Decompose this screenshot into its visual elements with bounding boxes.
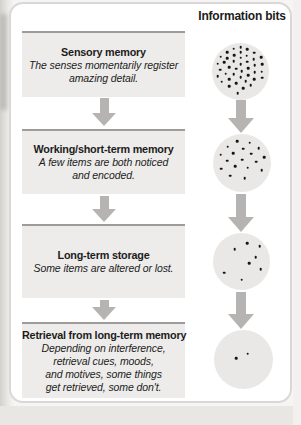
bits-circle-working: [213, 134, 271, 192]
information-bit-dot: [253, 71, 256, 74]
information-bit-dot: [232, 152, 235, 155]
information-bit-dot: [253, 64, 256, 67]
information-bit-dot: [239, 76, 242, 79]
information-bit-dot: [249, 84, 252, 87]
information-bit-dot: [226, 159, 229, 162]
information-bit-dot: [252, 58, 255, 61]
down-arrow-icon: [91, 98, 117, 126]
information-bit-dot: [244, 177, 247, 180]
information-bit-dot: [216, 62, 219, 65]
information-bit-dot: [261, 63, 264, 66]
information-bit-dot: [236, 92, 239, 95]
stage-description: Depending on interference, retrieval cue…: [22, 342, 185, 394]
information-bit-dot: [246, 242, 249, 245]
stage-description: The senses momentarily register amazing …: [22, 59, 185, 85]
arrow-shaft: [100, 196, 109, 209]
information-bit-dot: [236, 140, 239, 143]
arrow-shaft: [236, 292, 246, 314]
information-bit-dot: [260, 70, 263, 73]
arrow-head: [228, 118, 254, 133]
stage-title: Sensory memory: [22, 46, 185, 59]
arrow-shaft: [100, 98, 109, 113]
stage-box-long-term-storage: Long-term storage Some items are altered…: [22, 224, 185, 298]
information-bit-dot: [232, 73, 235, 76]
information-bit-dot: [228, 78, 231, 81]
bits-circle-retrieval: [214, 330, 273, 389]
information-bit-dot: [226, 145, 229, 148]
information-bit-dot: [235, 82, 238, 85]
information-bit-dot: [246, 61, 249, 64]
information-bit-dot: [258, 245, 261, 248]
memory-diagram-page: Information bits Sensory memory The sens…: [0, 0, 301, 425]
information-bit-dot: [248, 141, 251, 144]
information-bit-dot: [253, 78, 256, 81]
information-bit-dot: [245, 54, 248, 57]
information-bit-dot: [250, 152, 253, 155]
arrow-shaft: [236, 100, 246, 118]
stage-title: Long-term storage: [22, 249, 185, 262]
stage-box-retrieval: Retrieval from long-term memory Dependin…: [22, 322, 185, 398]
information-bit-dot: [239, 63, 242, 66]
arrow-head: [92, 307, 116, 320]
down-arrow-icon: [227, 100, 255, 133]
arrow-head: [228, 217, 254, 232]
information-bit-dot: [246, 48, 249, 51]
arrow-head: [92, 113, 116, 126]
information-bit-dot: [253, 51, 256, 54]
information-bit-dot: [232, 47, 235, 50]
information-bit-dot: [247, 166, 250, 169]
information-bit-dot: [239, 46, 242, 49]
page-left-dark-streak: [0, 14, 7, 110]
information-bit-dot: [220, 80, 223, 83]
information-bit-dot: [235, 67, 238, 70]
information-bit-dot: [233, 54, 236, 57]
information-bit-dot: [240, 278, 243, 281]
bits-circle-long-term: [213, 233, 270, 290]
information-bit-dot: [244, 80, 247, 83]
information-bit-dot: [254, 256, 257, 259]
information-bit-dot: [241, 158, 244, 161]
information-bit-dot: [216, 75, 219, 78]
information-bit-dot: [263, 156, 266, 159]
information-bit-dot: [219, 68, 222, 71]
information-bit-dot: [233, 248, 236, 251]
information-bit-dot: [228, 66, 231, 69]
stage-description: Some items are altered or lost.: [22, 262, 185, 275]
information-bit-dot: [242, 147, 245, 150]
stage-box-working-memory: Working/short-term memory A few items ar…: [22, 129, 185, 194]
down-arrow-icon: [91, 196, 117, 222]
arrow-head: [228, 314, 254, 329]
stage-description: A few items are both noticed and encoded…: [22, 156, 185, 182]
arrow-shaft: [236, 194, 246, 217]
information-bit-dot: [234, 165, 237, 168]
information-bit-dot: [261, 76, 264, 79]
information-bit-dot: [226, 51, 229, 54]
information-bit-dot: [228, 85, 231, 88]
information-bit-dot: [258, 147, 261, 150]
information-bits-heading: Information bits: [188, 9, 296, 23]
arrow-head: [92, 209, 116, 222]
information-bit-dot: [235, 357, 238, 360]
information-bit-dot: [255, 161, 258, 164]
information-bit-dot: [224, 72, 227, 75]
information-bit-dot: [242, 87, 245, 90]
down-arrow-icon: [227, 194, 255, 232]
page-right-margin: [293, 0, 301, 425]
information-bit-dot: [260, 169, 263, 172]
information-bit-dot: [240, 70, 243, 73]
information-bit-dot: [229, 174, 232, 177]
information-bit-dot: [220, 168, 223, 171]
arrow-shaft: [100, 300, 109, 307]
information-bit-dot: [260, 56, 263, 59]
information-bit-dot: [223, 272, 226, 275]
information-bit-dot: [260, 268, 263, 271]
information-bit-dot: [246, 352, 249, 355]
down-arrow-icon: [227, 292, 255, 329]
information-bit-dot: [247, 74, 250, 77]
bits-circle-sensory: [212, 43, 269, 100]
information-bit-dot: [219, 55, 222, 58]
down-arrow-icon: [91, 300, 117, 320]
information-bit-dot: [232, 60, 235, 63]
information-bit-dot: [239, 57, 242, 60]
information-bit-dot: [219, 154, 222, 157]
